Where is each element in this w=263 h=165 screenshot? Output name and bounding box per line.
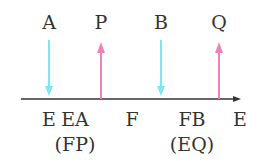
label-A: A [42,13,56,32]
label-Q: Q [211,13,227,32]
energy-level-diagram: A P B Q E EA F FB E (FP) (EQ) [0,0,263,165]
axis-arrowhead-icon [233,96,241,102]
label-E-right: E [233,110,247,129]
label-P: P [95,13,108,32]
arrow-B [157,40,165,96]
arrow-Q [215,42,223,99]
arrow-P [97,42,105,99]
label-EA: EA [61,110,89,129]
label-EQ: (EQ) [170,135,214,154]
arrow-A [45,40,53,96]
label-FP: (FP) [55,135,96,154]
label-E-left: E [42,110,56,129]
label-B: B [154,13,168,32]
label-F: F [125,110,138,129]
label-FB: FB [178,110,205,129]
